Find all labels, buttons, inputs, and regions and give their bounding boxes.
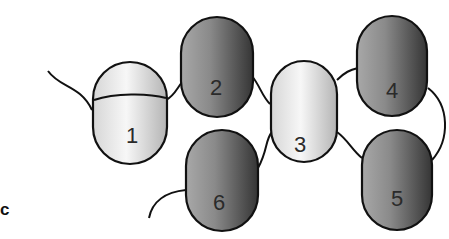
domain-4: 4 — [357, 16, 427, 116]
domain-2: 2 — [181, 17, 253, 117]
link-3-6 — [258, 132, 272, 168]
link-1-2 — [166, 82, 182, 100]
domain-6-label: 6 — [213, 190, 225, 215]
domain-1: 1 — [93, 62, 167, 164]
link-3-4 — [337, 68, 358, 80]
panel-label: c — [0, 200, 9, 219]
domain-6: 6 — [186, 130, 258, 231]
c-terminus-strand — [149, 190, 186, 218]
link-2-3 — [252, 76, 270, 104]
domain-4-label: 4 — [386, 78, 398, 103]
domain-3: 3 — [271, 61, 337, 162]
domain-2-label: 2 — [210, 75, 222, 100]
domain-diagram: 1 2 3 4 5 6 c — [0, 0, 449, 239]
domain-5-label: 5 — [391, 186, 403, 211]
link-3-5 — [337, 132, 362, 158]
domain-3-label: 3 — [294, 132, 306, 157]
link-4-5 — [428, 88, 445, 160]
n-terminus-strand — [48, 71, 92, 110]
domain-1-label: 1 — [126, 123, 138, 148]
domain-5: 5 — [362, 130, 432, 230]
